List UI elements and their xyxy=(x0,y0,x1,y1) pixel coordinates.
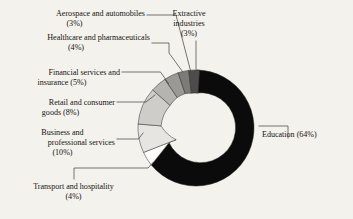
callout-percent: (3%) xyxy=(4,19,145,29)
callout-percent: (3%) xyxy=(159,29,219,39)
callout-line: Business and xyxy=(10,128,115,138)
leader-line-transport xyxy=(74,162,154,179)
callout-line: industries xyxy=(159,19,219,29)
callout-line: Extractive xyxy=(159,9,219,19)
callout-label-extractive-industries: Extractive industries (3%) xyxy=(159,9,219,40)
callout-line: Aerospace and automobiles xyxy=(4,9,145,19)
callout-label-business-and-professional-services: Business and professional services (10%) xyxy=(10,128,115,159)
donut-slices xyxy=(138,70,254,186)
callout-line: Transport and hospitality xyxy=(6,182,141,192)
leader-line-healthcare xyxy=(152,43,183,72)
callout-line: Healthcare and pharmaceuticals xyxy=(2,33,150,43)
callout-line: goods (8%) xyxy=(6,108,115,118)
callout-line: Education (64%) xyxy=(262,130,352,140)
callout-label-education: Education (64%) xyxy=(262,130,352,140)
callout-percent: (4%) xyxy=(2,43,150,53)
callout-label-financial-services-and-insurance: Financial services and insurance (5%) xyxy=(4,68,120,88)
callout-line: Retail and consumer xyxy=(6,98,115,108)
callout-label-aerospace-and-automobiles: Aerospace and automobiles (3%) xyxy=(4,9,145,29)
callout-label-healthcare-and-pharmaceuticals: Healthcare and pharmaceuticals (4%) xyxy=(2,33,150,53)
callout-line: Financial services and xyxy=(4,68,120,78)
callout-line: professional services xyxy=(10,138,115,148)
callout-line: insurance (5%) xyxy=(4,78,120,88)
callout-percent: (4%) xyxy=(6,192,141,202)
callout-label-retail-and-consumer-goods: Retail and consumer goods (8%) xyxy=(6,98,115,118)
callout-percent: (10%) xyxy=(10,148,115,158)
callout-label-transport-and-hospitality: Transport and hospitality (4%) xyxy=(6,182,141,202)
donut-chart-figure: Aerospace and automobiles (3%) Healthcar… xyxy=(0,0,353,219)
